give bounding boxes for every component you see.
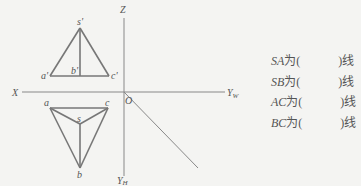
label-c: c — [105, 97, 110, 108]
answer-blank[interactable] — [302, 113, 340, 134]
label-b: b — [77, 169, 82, 180]
question-bc: BC为()线 — [271, 113, 356, 134]
label-s: s — [77, 113, 81, 124]
answer-blank[interactable] — [300, 72, 338, 93]
question-sb: SB为()线 — [271, 72, 356, 93]
question-ac: AC为()线 — [271, 92, 356, 113]
label-a: a — [44, 97, 49, 108]
label-c-prime: c' — [111, 70, 118, 81]
z-axis-label: Z — [120, 4, 126, 15]
question-list: SA为()线 SB为()线 AC为()线 BC为()线 — [271, 51, 356, 133]
yh-axis-label: YH — [117, 175, 129, 186]
front-view — [50, 28, 109, 76]
45-degree-line — [124, 92, 198, 168]
label-b-prime: b' — [71, 65, 79, 76]
label-a-prime: a' — [41, 70, 49, 81]
question-sa: SA为()线 — [271, 51, 356, 72]
answer-blank[interactable] — [302, 92, 340, 113]
origin-label: O — [125, 95, 132, 106]
x-axis-label: X — [11, 87, 19, 98]
answer-blank[interactable] — [300, 51, 338, 72]
label-s-prime: s' — [77, 16, 84, 27]
yw-axis-label: YW — [227, 87, 240, 100]
